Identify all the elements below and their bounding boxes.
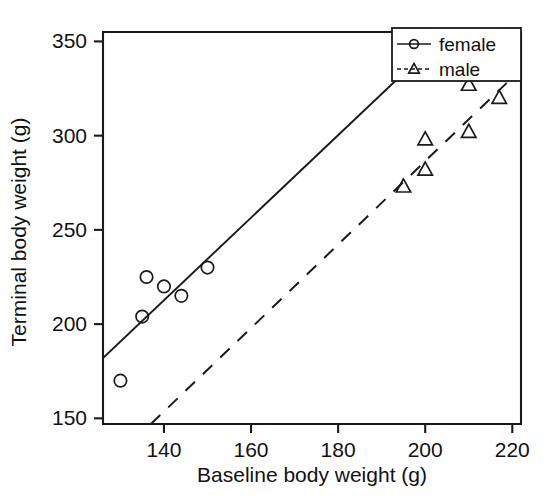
scatter-chart: 140160180200220150200250300350 femalemal… — [0, 0, 556, 500]
data-point-female — [201, 261, 213, 273]
x-tick-label: 160 — [234, 438, 269, 461]
legend-label-male: male — [439, 59, 480, 80]
y-tick-label: 250 — [52, 218, 87, 241]
data-points — [114, 77, 506, 387]
data-point-female — [114, 374, 126, 386]
data-point-female — [158, 280, 170, 292]
y-tick-label: 350 — [52, 29, 87, 52]
data-point-male — [418, 162, 432, 175]
data-point-male — [492, 90, 506, 103]
legend: femalemale — [392, 28, 521, 81]
data-point-female — [175, 290, 187, 302]
axes — [103, 32, 521, 424]
x-tick-label: 200 — [408, 438, 443, 461]
y-tick-label: 300 — [52, 124, 87, 147]
legend-label-female: female — [439, 34, 496, 55]
regression-lines — [103, 32, 517, 424]
plot-frame — [103, 32, 521, 424]
data-point-male — [462, 124, 476, 137]
x-tick-label: 140 — [146, 438, 181, 461]
y-axis-title: Terminal body weight (g) — [7, 118, 30, 347]
tick-labels: 140160180200220150200250300350 — [52, 29, 530, 461]
tick-marks — [94, 41, 512, 433]
data-point-female — [140, 271, 152, 283]
x-tick-label: 220 — [495, 438, 530, 461]
data-point-male — [418, 132, 432, 145]
plot-canvas: 140160180200220150200250300350 femalemal… — [0, 0, 556, 500]
fit-line-male — [151, 73, 517, 424]
x-axis-title: Baseline body weight (g) — [197, 463, 427, 486]
y-tick-label: 200 — [52, 312, 87, 335]
y-tick-label: 150 — [52, 406, 87, 429]
x-tick-label: 180 — [321, 438, 356, 461]
